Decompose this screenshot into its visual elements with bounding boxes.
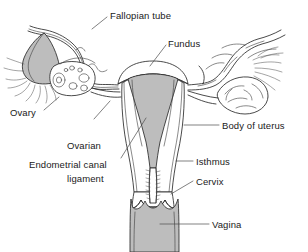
label-cervix: Cervix <box>196 176 224 187</box>
label-vagina: Vagina <box>212 219 241 230</box>
right-ovary-shape <box>217 77 268 114</box>
label-ovary: Ovary <box>10 107 36 118</box>
anatomical-diagram: .ln { fill:none; stroke:#2b2b2b; stroke-… <box>0 0 308 252</box>
label-ovarian-ligament-line2: ligament <box>67 173 104 184</box>
label-isthmus: Isthmus <box>196 156 230 167</box>
label-body-of-uterus: Body of uterus <box>222 120 285 131</box>
left-ovary-shape <box>50 62 95 96</box>
label-fundus: Fundus <box>168 38 200 49</box>
leader-fallopian-tube <box>92 17 107 29</box>
leader-ovarian-ligament <box>94 101 110 119</box>
label-endometrial-canal: Endometrial canal <box>29 159 107 170</box>
label-fallopian-tube: Fallopian tube <box>110 10 171 21</box>
leader-cervix <box>171 181 193 194</box>
label-ovarian-ligament-line1: Ovarian <box>67 140 104 151</box>
leader-ovary <box>44 97 59 110</box>
right-ovarian-ligament-shape <box>188 91 218 104</box>
